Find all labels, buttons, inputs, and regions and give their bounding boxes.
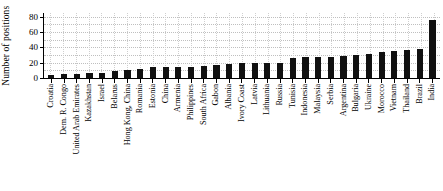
x-axis-label-slot: Bulgaria [350,84,363,189]
bar-slot [121,13,134,78]
x-axis-ticks [44,79,440,83]
bar-slot [312,13,325,78]
x-axis-tick-mark [419,79,420,83]
bar-slot [159,13,172,78]
x-axis-tick-mark [102,79,103,83]
x-axis-tick-mark [305,79,306,83]
bar-slot [185,13,198,78]
bar [417,49,423,78]
x-axis-label-slot: United Arab Emirates [70,84,83,189]
x-axis-tick-label: Malaysia [314,84,322,114]
bar [264,63,270,78]
x-axis-tick-label: Morocco [378,84,386,113]
y-axis-tick-label: 40 [29,43,38,52]
y-axis-title-text: Number of positions [2,6,12,86]
x-axis-tick-label: Armenia [174,84,182,112]
x-axis-label-slot: Albania [223,84,236,189]
x-axis-label-slot: Vietnam [388,84,401,189]
bar-slot [96,13,109,78]
bar-slot [286,13,299,78]
x-axis-tick-mark [64,79,65,83]
x-axis-tick-slot [261,79,274,83]
bar [429,20,435,78]
x-axis-tick-slot [401,79,414,83]
bar-slot [337,13,350,78]
bar [302,57,308,78]
x-axis-tick-slot [324,79,337,83]
x-axis-tick-mark [216,79,217,83]
x-axis-tick-slot [83,79,96,83]
x-axis-label-slot: Belarus [109,84,122,189]
x-axis-tick-slot [236,79,249,83]
bar-slot [197,13,210,78]
y-axis-tick-mark [40,32,43,33]
y-axis-tick-label: 60 [29,28,38,37]
y-axis-tick-labels: 020406080 [14,18,41,80]
x-axis-tick-slot [363,79,376,83]
x-axis-label-slot: Romania [134,84,147,189]
x-axis-label-slot: Thailand [401,84,414,189]
x-axis-tick-mark [152,79,153,83]
x-axis-tick-label: Tunisia [289,84,297,108]
x-axis-tick-label: Brazil [416,84,424,104]
x-axis-tick-slot [197,79,210,83]
y-axis-title: Number of positions [0,0,14,92]
x-axis-tick-mark [89,79,90,83]
x-axis-tick-label: Croatia [47,84,55,108]
x-axis-tick-slot [223,79,236,83]
x-axis-tick-mark [229,79,230,83]
bar [379,52,385,78]
x-axis-label-slot: Russia [274,84,287,189]
x-axis-tick-mark [318,79,319,83]
bar [239,63,245,78]
x-axis-tick-mark [165,79,166,83]
x-axis-tick-mark [394,79,395,83]
bar-slot [45,13,58,78]
x-axis-tick-label: Serbia [327,84,335,105]
x-axis-tick-mark [343,79,344,83]
x-axis-tick-slot [134,79,147,83]
x-axis-tick-label: Gabon [212,84,220,106]
x-axis-label-slot: Israel [96,84,109,189]
bar [188,67,194,78]
bar-slot [363,13,376,78]
x-axis-tick-mark [127,79,128,83]
x-axis-label-slot: Lithuania [261,84,274,189]
bar-slot [210,13,223,78]
x-axis-tick-label: Lithuania [263,84,271,115]
x-axis-label-slot: Kazakhstan [83,84,96,189]
x-axis-tick-slot [350,79,363,83]
x-axis-label-slot: Latvia [248,84,261,189]
x-axis-tick-slot [299,79,312,83]
x-axis-tick-mark [280,79,281,83]
x-axis-label-slot: Ivory Coast [236,84,249,189]
x-axis-tick-label: Russia [276,84,284,106]
x-axis-tick-mark [330,79,331,83]
x-axis-tick-mark [178,79,179,83]
bar-slot [83,13,96,78]
x-axis-label-slot: Croatia [45,84,58,189]
x-axis-tick-label: Philippines [187,84,195,120]
x-axis-tick-label: Albania [225,84,233,110]
x-axis-tick-slot [286,79,299,83]
x-axis-tick-label: Estonia [149,84,157,108]
x-axis-tick-mark [203,79,204,83]
x-axis-label-slot: Hong Kong, China [121,84,134,189]
x-axis-tick-slot [248,79,261,83]
bar [340,56,346,78]
bar [252,63,258,78]
x-axis-tick-mark [76,79,77,83]
bar [226,64,232,78]
x-axis-tick-slot [96,79,109,83]
x-axis-tick-mark [381,79,382,83]
bar-slot [426,13,439,78]
bar [137,69,143,78]
x-axis-tick-mark [292,79,293,83]
x-axis-tick-mark [356,79,357,83]
x-axis-tick-slot [388,79,401,83]
y-axis-tick-mark [40,17,43,18]
x-axis-tick-mark [432,79,433,83]
x-axis-tick-label: Argentina [339,84,347,116]
x-axis-label-slot: Brazil [413,84,426,189]
bar [315,57,321,78]
